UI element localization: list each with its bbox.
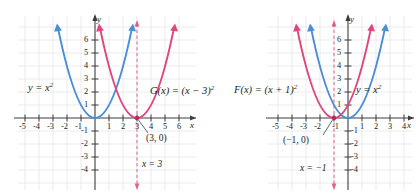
y-tick-label: 5: [337, 49, 341, 57]
label-base-curve-text: y = x: [356, 84, 378, 95]
panel-right-shift-left: -5 -4 -3 -2 -1 1 2 3 4 6 5 4 3 2 1 -1 -2…: [208, 0, 416, 194]
vertex-dot-right: [332, 116, 337, 121]
label-axis-of-symmetry: x = −1: [300, 164, 327, 174]
label-shifted-curve-exponent: 2: [294, 83, 298, 91]
y-tick-label: -3: [351, 153, 358, 161]
x-tick-label: -3: [300, 123, 307, 131]
x-tick-label: -5: [272, 123, 279, 131]
label-shifted-curve-text: F(x) = (x + 1): [234, 84, 294, 95]
y-tick-label: 1: [84, 101, 88, 109]
y-tick-label: 4: [337, 62, 341, 70]
x-tick-label: -2: [314, 123, 321, 131]
label-base-curve: y = x2: [28, 83, 53, 94]
panel-left-shift-right: -5 -4 -3 -2 -1 1 2 3 4 5 6 6 5 4 3 2 1 -…: [0, 0, 208, 194]
x-tick-label: 2: [121, 123, 125, 131]
x-tick-label: -4: [33, 123, 40, 131]
y-tick-label: -1: [81, 127, 88, 135]
x-tick-label: -2: [61, 123, 68, 131]
x-axis-name: x: [190, 121, 194, 130]
y-tick-label: 4: [84, 62, 88, 70]
label-base-curve: y = x2: [356, 85, 381, 96]
y-tick-label: -3: [81, 153, 88, 161]
y-tick-label: 3: [337, 75, 341, 83]
label-axis-of-symmetry: x = 3: [142, 160, 162, 170]
y-tick-label: 6: [337, 36, 341, 44]
y-axis-name: y: [350, 15, 354, 24]
x-tick-label: 2: [374, 123, 378, 131]
label-base-curve-exponent: 2: [50, 81, 54, 89]
figure-horizontal-shifts: -5 -4 -3 -2 -1 1 2 3 4 5 6 6 5 4 3 2 1 -…: [0, 0, 416, 194]
x-tick-label: 4: [149, 123, 153, 131]
x-tick-label: 4: [402, 123, 406, 131]
y-tick-label: 2: [337, 88, 341, 96]
y-tick-label: -2: [81, 140, 88, 148]
label-shifted-curve: G(x) = (x − 3)2: [150, 86, 214, 97]
y-tick-label: 6: [84, 36, 88, 44]
y-tick-label: 2: [84, 88, 88, 96]
label-vertex-point: (−1, 0): [283, 136, 309, 146]
x-tick-label: 6: [177, 123, 181, 131]
x-tick-label: -3: [47, 123, 54, 131]
y-tick-label: 5: [84, 49, 88, 57]
x-axis-name: x: [407, 121, 411, 130]
y-tick-label: 3: [84, 75, 88, 83]
x-tick-label: 3: [388, 123, 392, 131]
grid-lines-left: [18, 16, 196, 190]
x-tick-label: -4: [286, 123, 293, 131]
label-base-curve-text: y = x: [28, 82, 50, 93]
y-tick-label: 1: [337, 101, 341, 109]
x-tick-label: 5: [163, 123, 167, 131]
x-tick-label: -5: [19, 123, 26, 131]
x-tick-label: -1: [332, 123, 339, 131]
label-base-curve-exponent: 2: [378, 83, 382, 91]
label-shifted-curve-text: G(x) = (x − 3): [150, 85, 211, 96]
y-tick-label: -4: [81, 166, 88, 174]
plot-left-svg: [0, 0, 208, 194]
x-tick-label: 1: [360, 123, 364, 131]
vertex-dot-left: [135, 116, 140, 121]
y-axis-name: y: [97, 15, 101, 24]
axes-left: [14, 14, 196, 190]
label-vertex-point: (3, 0): [146, 134, 167, 144]
y-tick-label: -1: [351, 127, 358, 135]
y-tick-label: -2: [351, 140, 358, 148]
x-tick-label: 1: [107, 123, 111, 131]
label-shifted-curve: F(x) = (x + 1)2: [234, 85, 297, 96]
y-tick-label: -4: [351, 166, 358, 174]
x-tick-label: 3: [135, 123, 139, 131]
